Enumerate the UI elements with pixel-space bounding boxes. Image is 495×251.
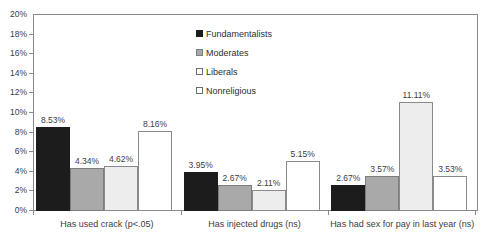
x-axis-category-label: Has had sex for pay in last year (ns) [330,219,474,230]
y-axis-tick-label: 4% [15,167,27,176]
bar [365,176,399,211]
y-axis-tick-mark [29,151,33,152]
legend-label: Liberals [206,67,238,77]
y-axis-tick-label: 12% [10,88,27,97]
legend-label: Fundamentalists [206,29,272,39]
bar [252,190,286,211]
y-axis-tick-mark [29,53,33,54]
bar-value-label: 4.62% [109,155,133,164]
bar-value-label: 3.57% [370,165,394,174]
legend-swatch-icon [196,68,203,75]
x-axis-category-label: Has used crack (p<.05) [60,219,153,230]
bar [399,102,433,211]
bar [433,176,467,211]
bar [331,185,365,211]
y-axis-tick-mark [29,73,33,74]
y-axis-tick-label: 0% [15,206,27,215]
y-axis-tick-mark [29,34,33,35]
bar [286,161,320,211]
x-axis-tick-mark [33,211,34,215]
bar-value-label: 2.67% [336,174,360,183]
bar [70,168,104,211]
bar-value-label: 3.95% [189,161,213,170]
y-axis-tick-mark [29,92,33,93]
legend-swatch-icon [196,30,203,37]
legend-swatch-icon [196,49,203,56]
y-axis: 0%2%4%6%8%10%12%14%16%18%20% [0,14,33,211]
legend-item[interactable]: Fundamentalists [196,24,316,43]
legend-label: Nonreligious [206,86,256,96]
bar-value-label: 3.53% [438,165,462,174]
x-axis-tick-mark [181,211,182,215]
y-axis-tick-label: 20% [10,10,27,19]
y-axis-tick-mark [29,171,33,172]
y-axis-tick-label: 6% [15,147,27,156]
bar [104,166,138,211]
bar [138,131,172,211]
bar [184,172,218,211]
y-axis-tick-label: 10% [10,108,27,117]
y-axis-tick-label: 18% [10,29,27,38]
legend-item[interactable]: Liberals [196,62,316,81]
y-axis-tick-label: 2% [15,186,27,195]
x-axis-category-label: Has injected drugs (ns) [208,219,301,230]
legend-swatch-icon [196,87,203,94]
y-axis-tick-mark [29,112,33,113]
legend-item[interactable]: Moderates [196,43,316,62]
legend: FundamentalistsModeratesLiberalsNonrelig… [196,24,316,100]
bar-value-label: 4.34% [75,157,99,166]
y-axis-tick-label: 16% [10,49,27,58]
bar-value-label: 2.11% [257,179,280,188]
y-axis-tick-label: 8% [15,127,27,136]
bar-value-label: 8.53% [41,116,65,125]
y-axis-tick-mark [29,190,33,191]
x-axis-labels: Has used crack (p<.05)Has injected drugs… [33,219,478,235]
y-axis-tick-mark [29,132,33,133]
x-axis-tick-mark [475,211,476,215]
bar-value-label: 2.67% [223,174,247,183]
bar [218,185,252,211]
y-axis-tick-label: 14% [10,69,27,78]
bar-value-label: 8.16% [143,120,167,129]
legend-item[interactable]: Nonreligious [196,81,316,100]
legend-label: Moderates [206,48,249,58]
bar-chart: 0%2%4%6%8%10%12%14%16%18%20% 8.53%4.34%4… [0,0,495,251]
bar-value-label: 11.11% [403,91,431,100]
bar [36,127,70,211]
bar-value-label: 5.15% [291,150,315,159]
x-axis-tick-mark [328,211,329,215]
x-axis [33,211,478,216]
